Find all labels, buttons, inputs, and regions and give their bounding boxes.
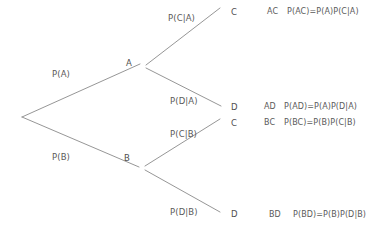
node-label-a: A — [126, 58, 132, 68]
branch-b-to-d — [145, 170, 220, 212]
outcome-expression-ac: P(AC)=P(A)P(C|A) — [287, 7, 359, 17]
outcome-name-ac: AC — [267, 7, 278, 17]
node-label-d-lower: D — [231, 209, 238, 219]
outcome-name-ad: AD — [264, 102, 276, 112]
edge-label-p-b: P(B) — [52, 152, 70, 162]
outcome-name-bc: BC — [264, 118, 275, 128]
outcome-expression-ad: P(AD)=P(A)P(D|A) — [284, 102, 357, 112]
node-label-d-upper: D — [231, 102, 238, 112]
edge-label-p-c-given-b: P(C|B) — [170, 129, 197, 139]
branch-root-to-a — [22, 64, 140, 117]
branch-b-to-c — [145, 119, 220, 166]
node-label-c-upper: C — [231, 7, 237, 17]
edge-label-p-d-given-a: P(D|A) — [170, 96, 198, 106]
outcome-expression-bd: P(BD)=P(B)P(D|B) — [293, 210, 366, 220]
tree-branches-svg — [0, 0, 384, 234]
probability-tree-diagram: A B C D C D P(A) P(B) P(C|A) P(D|A) P(C|… — [0, 0, 384, 234]
edge-label-p-c-given-a: P(C|A) — [168, 13, 195, 23]
branch-root-to-b — [22, 117, 139, 167]
node-label-b: B — [124, 153, 130, 163]
outcome-expression-bc: P(BC)=P(B)P(C|B) — [284, 118, 356, 128]
edge-label-p-d-given-b: P(D|B) — [170, 207, 198, 217]
edge-label-p-a: P(A) — [52, 69, 70, 79]
node-label-c-lower: C — [231, 118, 237, 128]
outcome-name-bd: BD — [269, 210, 281, 220]
